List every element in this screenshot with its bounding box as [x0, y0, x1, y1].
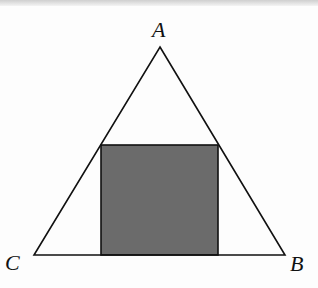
- triangle-diagram: A C B: [0, 0, 318, 288]
- label-c: C: [5, 250, 20, 275]
- inscribed-square: [101, 145, 218, 255]
- label-a: A: [150, 17, 166, 42]
- label-b: B: [290, 251, 303, 276]
